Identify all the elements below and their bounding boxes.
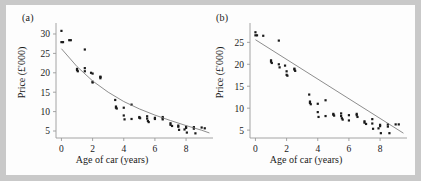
figure-panel: (a) 5101520253002468 Age of car (years) …	[6, 5, 415, 175]
x-axis-title-b: Age of car (years)	[204, 154, 408, 165]
subplot-panel-b: (b) 51015202502468 Age of car (years) Pr…	[204, 5, 408, 175]
subplot-panel-a: (a) 5101520253002468 Age of car (years) …	[10, 5, 214, 175]
scatter-plot-b: 51015202502468	[204, 5, 408, 175]
svg-text:8: 8	[378, 144, 383, 154]
svg-text:20: 20	[235, 60, 245, 70]
figure-root: (a) 5101520253002468 Age of car (years) …	[0, 0, 421, 181]
svg-text:2: 2	[90, 144, 95, 154]
svg-text:2: 2	[284, 144, 289, 154]
svg-text:15: 15	[41, 88, 51, 98]
svg-text:6: 6	[153, 144, 158, 154]
svg-text:6: 6	[347, 144, 352, 154]
svg-text:20: 20	[41, 68, 51, 78]
svg-text:25: 25	[41, 49, 51, 59]
svg-text:10: 10	[235, 104, 245, 114]
svg-text:5: 5	[45, 126, 50, 136]
svg-text:10: 10	[41, 107, 51, 117]
scatter-plot-a: 5101520253002468	[10, 5, 214, 175]
svg-text:4: 4	[121, 144, 126, 154]
y-axis-title-a: Price (£'000)	[16, 30, 27, 116]
svg-text:8: 8	[184, 144, 189, 154]
x-axis-title-a: Age of car (years)	[10, 154, 214, 165]
svg-text:30: 30	[41, 29, 51, 39]
svg-text:5: 5	[239, 126, 244, 136]
y-axis-title-b: Price (£'000)	[214, 30, 225, 116]
svg-text:0: 0	[253, 144, 258, 154]
svg-text:0: 0	[59, 144, 64, 154]
svg-text:25: 25	[235, 38, 245, 48]
svg-text:4: 4	[315, 144, 320, 154]
svg-text:15: 15	[235, 82, 245, 92]
